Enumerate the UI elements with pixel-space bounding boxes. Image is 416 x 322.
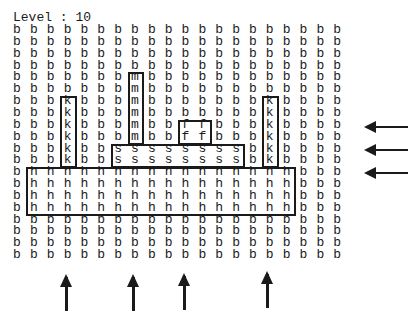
background-cell: b xyxy=(211,249,227,261)
background-cell: b xyxy=(279,249,295,261)
piece-k-left[interactable] xyxy=(60,96,77,168)
background-cell: b xyxy=(245,249,261,261)
background-cell: b xyxy=(110,249,126,261)
piece-h[interactable] xyxy=(26,167,296,215)
piece-m[interactable] xyxy=(128,72,145,144)
background-cell: b xyxy=(161,249,177,261)
piece-s[interactable] xyxy=(111,144,246,169)
arrow-up-icon-3[interactable] xyxy=(183,276,186,310)
background-cell: b xyxy=(295,249,311,261)
background-cell: b xyxy=(93,249,109,261)
arrow-left-icon-3[interactable] xyxy=(366,172,408,174)
background-cell: b xyxy=(262,249,278,261)
background-cell: b xyxy=(144,249,160,261)
background-cell: b xyxy=(60,249,76,261)
background-cell: b xyxy=(178,249,194,261)
arrow-left-icon-1[interactable] xyxy=(366,126,408,128)
background-cell: b xyxy=(228,249,244,261)
arrow-left-icon-2[interactable] xyxy=(366,149,408,151)
background-cell: b xyxy=(26,249,42,261)
arrow-up-icon-4[interactable] xyxy=(266,274,269,308)
background-cell: b xyxy=(194,249,210,261)
arrow-up-icon-1[interactable] xyxy=(65,277,68,311)
background-cell: b xyxy=(312,249,328,261)
piece-k-right[interactable] xyxy=(262,96,279,168)
background-cell: b xyxy=(329,249,345,261)
background-cell: b xyxy=(76,249,92,261)
piece-f[interactable] xyxy=(178,120,212,145)
background-cell: b xyxy=(9,249,25,261)
background-cell: b xyxy=(127,249,143,261)
arrow-up-icon-2[interactable] xyxy=(132,277,135,311)
background-cell: b xyxy=(43,249,59,261)
